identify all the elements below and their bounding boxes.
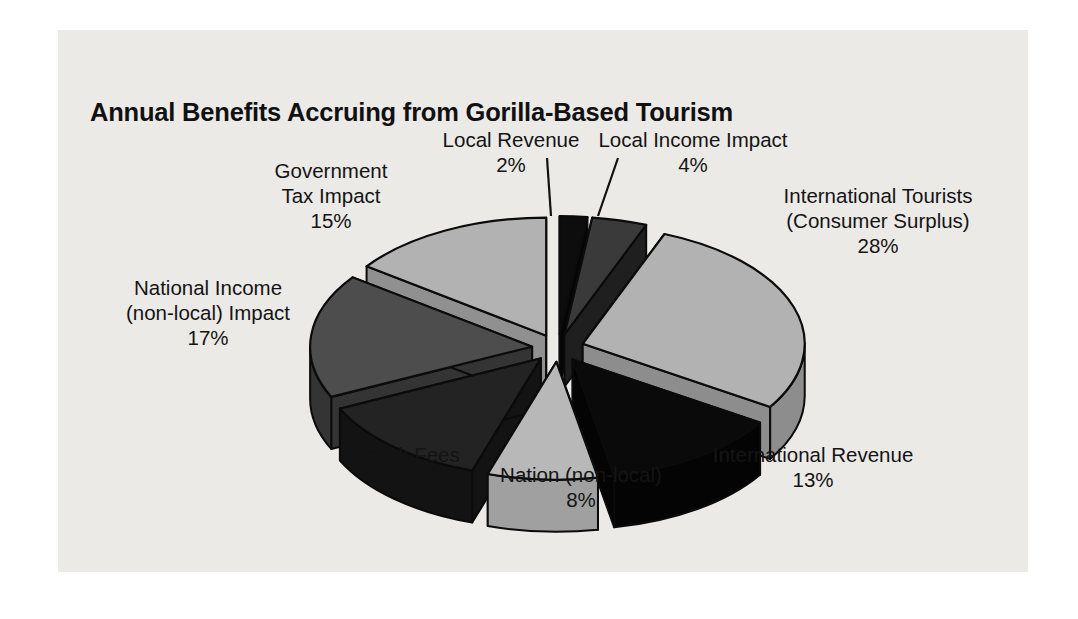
slice-label-text: Local Income Impact [598, 128, 787, 151]
slice-label-text-2: (non-local) Impact [88, 300, 328, 325]
slice-label-text: Nation (non-local) [500, 463, 662, 486]
slice-label-text: Park Fees [366, 443, 459, 466]
slice-label-text-2: Tax Impact [236, 183, 426, 208]
figure-root: Annual Benefits Accruing from Gorilla-Ba… [0, 0, 1078, 619]
slice-label-percent: 13% [688, 467, 938, 492]
slice-label-text: Local Revenue [443, 128, 580, 151]
chart-panel: Annual Benefits Accruing from Gorilla-Ba… [58, 30, 1028, 572]
slice-label-text: International Revenue [713, 443, 914, 466]
slice-label-percent: 17% [88, 325, 328, 350]
slice-label-text: International Tourists [784, 184, 973, 207]
slice-label-government-tax-impact: Government Tax Impact 15% [236, 158, 426, 233]
slice-label-international-tourists: International Tourists (Consumer Surplus… [748, 183, 1008, 258]
slice-label-national-income-non-local-impact: National Income (non-local) Impact 17% [88, 275, 328, 350]
slice-label-text: National Income [134, 276, 282, 299]
slice-label-percent: 28% [748, 233, 1008, 258]
slice-label-percent: 8% [466, 487, 696, 512]
slice-label-text-2: (Consumer Surplus) [748, 208, 1008, 233]
slice-label-text: Government [275, 159, 388, 182]
slice-label-local-income-impact: Local Income Impact 4% [578, 127, 808, 177]
slice-label-international-revenue: International Revenue 13% [688, 442, 938, 492]
slice-label-percent: 15% [236, 208, 426, 233]
slice-label-nation-non-local: Nation (non-local) 8% [466, 462, 696, 512]
slice-label-percent: 4% [578, 152, 808, 177]
